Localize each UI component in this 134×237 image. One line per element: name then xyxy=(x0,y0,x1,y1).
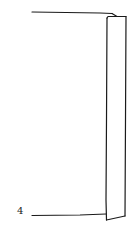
top-fold xyxy=(107,14,117,19)
top-line xyxy=(32,12,112,14)
bottom-line xyxy=(32,214,106,216)
strip-right-edge xyxy=(125,17,126,217)
strip-left-edge xyxy=(106,18,107,220)
reference-label-4: 4 xyxy=(17,205,23,216)
strip-bottom xyxy=(107,216,126,220)
diagram-canvas xyxy=(0,0,134,237)
